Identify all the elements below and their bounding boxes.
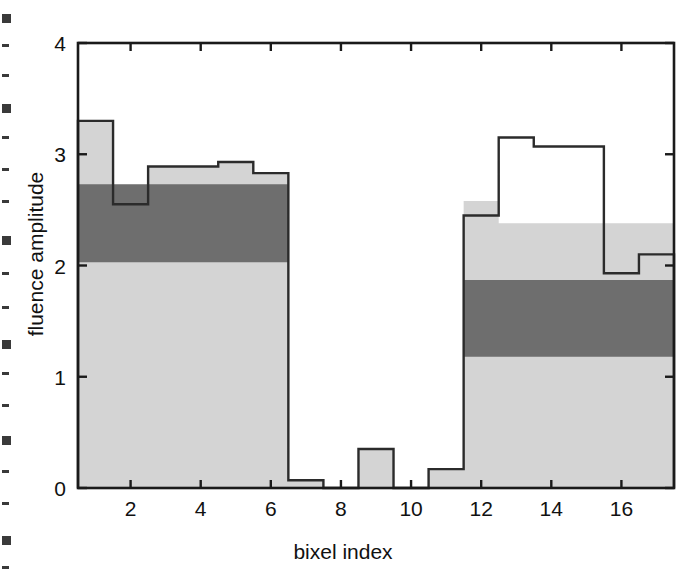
x-tick-label: 16 [610,497,633,520]
chart-svg: 24681012141601234 [0,0,686,584]
x-tick-label: 4 [195,497,207,520]
y-tick-label: 3 [54,143,66,166]
y-tick-label: 1 [54,366,66,389]
y-axis-label: fluence amplitude [24,134,48,374]
x-axis-label: bixel index [0,540,686,564]
x-tick-label: 10 [399,497,422,520]
y-tick-label: 2 [54,255,66,278]
figure-root: 24681012141601234 fluence amplitude bixe… [0,0,686,584]
x-tick-label: 14 [540,497,564,520]
x-tick-label: 6 [265,497,277,520]
x-tick-label: 8 [335,497,347,520]
x-tick-label: 2 [125,497,137,520]
plot-area: 24681012141601234 [0,0,686,584]
chart-content: 24681012141601234 [54,32,674,520]
y-tick-label: 0 [54,477,66,500]
x-tick-label: 12 [469,497,492,520]
y-tick-label: 4 [54,32,66,55]
